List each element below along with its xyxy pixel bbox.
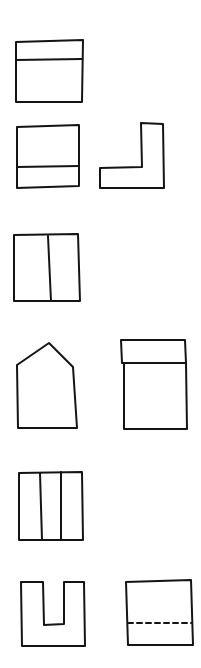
box-with-dashed-line — [126, 580, 193, 645]
l-shape — [100, 123, 164, 188]
box-with-bottom-band — [17, 125, 79, 188]
tall-box-with-lid — [121, 340, 187, 429]
house-pentagon — [17, 343, 77, 428]
sketch-canvas — [0, 0, 201, 668]
u-shape — [21, 582, 85, 646]
box-split-two-columns — [14, 234, 80, 301]
box-with-top-band — [16, 40, 83, 102]
box-split-three-columns — [19, 472, 83, 540]
